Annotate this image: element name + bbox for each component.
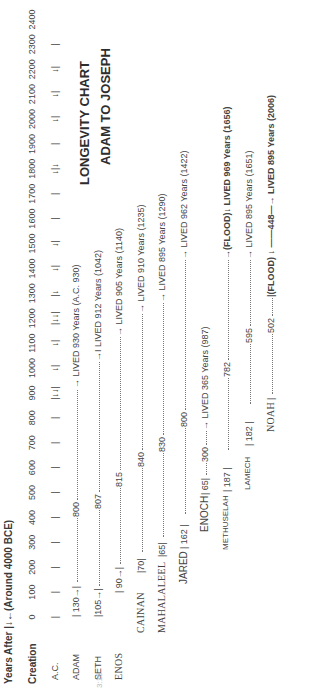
scale-tick-label: 200 xyxy=(28,560,37,575)
after-noah: 502 xyxy=(267,318,276,333)
ac-marker: ↓| xyxy=(51,66,60,73)
ac-marker: ↓| xyxy=(51,265,60,272)
scale-tick-label: 800 xyxy=(28,410,37,425)
result-jared: → LIVED 962 Years (1422) xyxy=(180,150,189,259)
line-enos-a xyxy=(120,488,121,564)
scale-tick-label: 2100 xyxy=(28,84,37,104)
line-methuselah-b xyxy=(228,260,229,360)
result-cainan: → LIVED 910 Years (1235) xyxy=(137,204,146,313)
ac-marker: ↓| xyxy=(51,116,60,123)
patriarch-name-enoch: ENOCH xyxy=(200,496,210,532)
result-noah: |(FLOOD) ↓ ——448—→ LIVED 895 Years (2006… xyxy=(267,95,276,297)
line-adam-b xyxy=(77,390,78,500)
patriarch-name-cainan: CAINAN xyxy=(136,592,146,633)
patriarch-name-enos: ENOS xyxy=(114,653,124,680)
years-after-label: Years After |↓←(Around 4000 BCE) xyxy=(4,520,14,684)
patriarch-name-adam: ADAM xyxy=(72,654,81,680)
after-adam: 800 xyxy=(72,502,81,517)
after-cainan: 840 xyxy=(137,452,146,467)
ac-marker: ↓| xyxy=(51,340,60,347)
scale-tick-label: 1600 xyxy=(28,209,37,229)
ac-marker: |↓↓| xyxy=(51,311,60,325)
begat-jared: | 162 | xyxy=(180,524,189,549)
line-enoch-b xyxy=(206,431,207,445)
ac-marker: ↓| xyxy=(51,365,60,372)
scale-tick-label: 1900 xyxy=(28,134,37,154)
line-seth-a xyxy=(99,510,100,586)
line-mahalaleel-b xyxy=(163,303,164,435)
scale-tick-label: 1700 xyxy=(28,184,37,204)
after-lamech: 595 xyxy=(245,328,254,343)
ac-marker: ↓|↓ xyxy=(51,163,60,174)
line-jared-a xyxy=(185,428,186,514)
patriarch-name-noah: NOAH xyxy=(266,402,276,432)
begat-seth: |105→| xyxy=(94,588,103,617)
begat-methuselah: | 187 | xyxy=(223,467,232,492)
after-seth: 807 xyxy=(94,494,103,509)
ac-marker: | xyxy=(51,442,60,444)
ac-marker: | xyxy=(51,541,60,543)
result-adam: → LIVED 930 Years (A.C. 930) xyxy=(72,264,81,388)
result-lamech: → LIVED 895 Years (1651) xyxy=(245,150,254,259)
ac-marker: | xyxy=(51,143,60,145)
ac-label: A.C. xyxy=(51,662,60,680)
line-adam-a xyxy=(77,518,78,582)
scale-tick-label: 100 xyxy=(28,585,37,600)
patriarch-name-mahalaleel: MAHALALEEL xyxy=(157,562,167,633)
after-jared: 800 xyxy=(180,412,189,427)
scale-tick-label: 600 xyxy=(28,460,37,475)
scale-tick-label: 0 xyxy=(28,614,37,619)
scale-tick-label: 1100 xyxy=(28,333,37,352)
line-lamech-a xyxy=(250,344,251,404)
begat-enos: | 90→| xyxy=(115,567,124,593)
scale-tick-label: 1000 xyxy=(28,358,37,378)
after-mahalaleel: 830 xyxy=(158,437,167,452)
result-mahalaleel: → LIVED 895 Years (1290) xyxy=(158,193,167,302)
scale-tick-label: 2000 xyxy=(28,109,37,129)
ac-marker: | xyxy=(51,466,60,468)
ac-marker: | xyxy=(51,616,60,618)
line-noah-a xyxy=(272,334,273,394)
patriarch-name-lamech: LAMECH xyxy=(244,457,252,490)
clipped-text: 3:16 xyxy=(96,672,104,688)
scale-tick-label: 1300 xyxy=(28,283,37,303)
after-methuselah: 782 xyxy=(223,362,232,377)
line-mahalaleel-a xyxy=(163,453,164,537)
patriarch-name-methuselah: METHUSELAH xyxy=(222,495,230,550)
scale-tick-label: 1200 xyxy=(28,308,37,328)
result-seth: →I LIVED 912 Years (1042) xyxy=(94,250,103,361)
begat-lamech: | 182 | xyxy=(245,421,254,446)
after-enoch: 300 xyxy=(201,447,210,462)
ac-marker: | xyxy=(51,591,60,593)
result-enoch: → LIVED 365 Years (987) xyxy=(201,326,210,430)
line-methuselah-a xyxy=(228,378,229,450)
ac-marker: ↓| xyxy=(51,240,60,247)
ac-marker: | xyxy=(51,43,60,45)
ac-marker: ↓| xyxy=(51,91,60,98)
ac-marker: | xyxy=(51,516,60,518)
scale-tick-label: 700 xyxy=(28,435,37,450)
scale-tick-label: 2200 xyxy=(28,59,37,79)
line-seth-b xyxy=(99,362,100,492)
line-jared-b xyxy=(185,260,186,410)
scale-tick-label: 1800 xyxy=(28,159,37,179)
result-methuselah: →(FLOOD)↓ LIVED 969 Years (1656) xyxy=(223,107,232,259)
line-noah-b xyxy=(272,298,273,316)
ac-marker: | xyxy=(51,417,60,419)
scale-tick-label: 400 xyxy=(28,510,37,525)
result-enos: → LIVED 905 Years (1140) xyxy=(115,228,124,336)
chart-title: LONGEVITY CHART xyxy=(78,61,91,185)
scale-tick-label: 900 xyxy=(28,385,37,400)
scale-tick-label: 2400 xyxy=(28,9,37,29)
scale-tick-label: 1500 xyxy=(28,233,37,253)
line-lamech-b xyxy=(250,260,251,326)
patriarch-name-jared: JARED xyxy=(179,551,189,584)
scale-tick-label: 1400 xyxy=(28,258,37,278)
ac-marker: |↓↓| xyxy=(51,386,60,400)
ac-marker: | xyxy=(51,217,60,219)
scale-tick-label: 2300 xyxy=(28,34,37,54)
ac-marker: |↓ xyxy=(51,290,60,297)
after-enos: 815 xyxy=(115,472,124,487)
begat-cainan: |70| xyxy=(137,558,146,573)
line-cainan-b xyxy=(142,314,143,450)
